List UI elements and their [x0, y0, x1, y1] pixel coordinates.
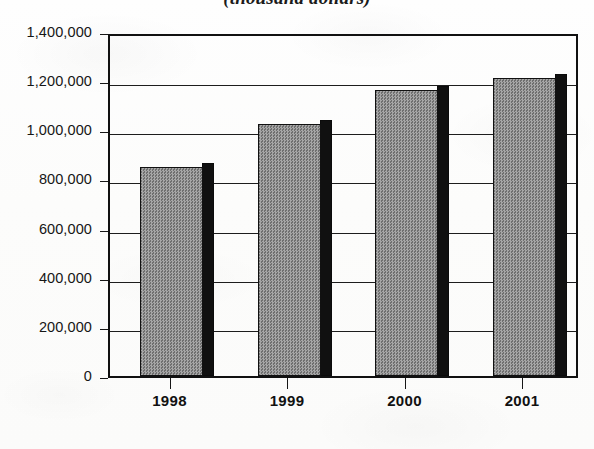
bar-shadow	[555, 74, 567, 376]
y-axis-tick-label: 1,000,000	[27, 122, 92, 138]
bar-shadow	[202, 163, 214, 376]
bar-shadow	[320, 120, 332, 376]
y-axis-tick-mark	[100, 34, 108, 35]
y-axis-tick-mark	[100, 83, 108, 84]
y-axis-tick-label: 400,000	[39, 270, 92, 286]
bar-chart: (thousand dollars) 1,400,0001,200,0001,0…	[0, 0, 594, 449]
y-axis-tick-label: 800,000	[39, 171, 92, 187]
y-axis-tick-label: 0	[84, 368, 92, 384]
x-axis-tick-label: 2000	[365, 392, 445, 409]
x-axis-tick-mark	[287, 378, 288, 389]
y-axis-tick-mark	[100, 181, 108, 182]
bar-front	[493, 78, 556, 376]
y-axis-tick-mark	[100, 231, 108, 232]
bar-front	[258, 124, 321, 376]
y-axis-tick-mark	[100, 378, 108, 379]
x-axis-tick-label: 1999	[247, 392, 327, 409]
y-axis-tick-mark	[100, 329, 108, 330]
bar-shadow	[437, 86, 449, 376]
y-axis-tick-mark	[100, 132, 108, 133]
y-axis-tick-label: 1,200,000	[27, 73, 92, 89]
bar-front	[140, 167, 203, 376]
x-axis-tick-label: 1998	[130, 392, 210, 409]
y-axis-tick-label: 1,400,000	[27, 24, 92, 40]
plot-area	[108, 34, 578, 378]
y-axis-tick-label: 200,000	[39, 319, 92, 335]
x-axis-tick-mark	[405, 378, 406, 389]
x-axis-tick-mark	[522, 378, 523, 389]
x-axis-tick-mark	[170, 378, 171, 389]
x-axis-tick-label: 2001	[482, 392, 562, 409]
y-axis-tick-label: 600,000	[39, 221, 92, 237]
chart-title: (thousand dollars)	[0, 0, 594, 9]
y-axis-tick-mark	[100, 280, 108, 281]
bar-front	[375, 90, 438, 376]
